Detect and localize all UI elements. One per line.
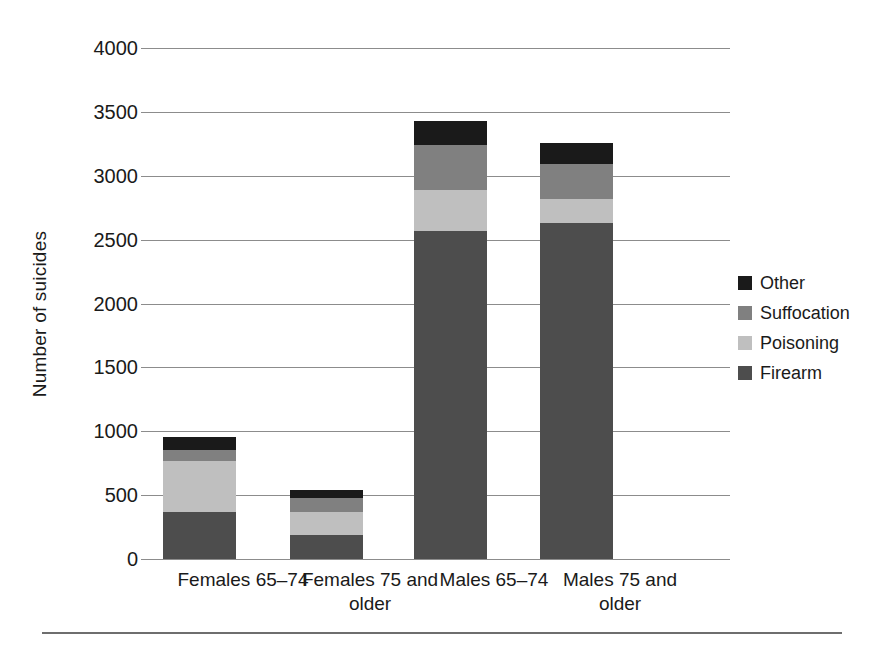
bar-segment-suffocation bbox=[290, 498, 363, 512]
x-tick-label-4: Males 75 and older bbox=[540, 568, 700, 616]
bar-segment-poisoning bbox=[163, 461, 236, 512]
y-tick-label-1000: 1000 bbox=[68, 421, 138, 441]
bar-segment-firearm bbox=[163, 512, 236, 559]
bar-2 bbox=[290, 490, 363, 559]
bar-4 bbox=[540, 143, 613, 559]
y-tick-label-2500: 2500 bbox=[68, 230, 138, 250]
gridline-0 bbox=[163, 559, 730, 560]
bar-segment-poisoning bbox=[414, 190, 487, 231]
bar-1 bbox=[163, 437, 236, 559]
legend-label-other: Other bbox=[760, 273, 805, 294]
legend-swatch-poisoning bbox=[738, 336, 752, 350]
legend-item-other[interactable]: Other bbox=[738, 268, 868, 298]
legend-swatch-firearm bbox=[738, 366, 752, 380]
bar-segment-firearm bbox=[540, 223, 613, 559]
chart-legend: OtherSuffocationPoisoningFirearm bbox=[738, 268, 868, 388]
y-tick-label-500: 500 bbox=[68, 485, 138, 505]
legend-label-poisoning: Poisoning bbox=[760, 333, 839, 354]
y-tick-mark-2500 bbox=[141, 240, 163, 241]
bar-3 bbox=[414, 121, 487, 559]
bottom-divider bbox=[42, 632, 842, 634]
gridline-4000 bbox=[163, 48, 730, 49]
bar-segment-poisoning bbox=[290, 512, 363, 535]
x-axis-tick-labels: Females 65–74Females 75 and olderMales 6… bbox=[120, 568, 780, 628]
legend-item-poisoning[interactable]: Poisoning bbox=[738, 328, 868, 358]
y-tick-label-4000: 4000 bbox=[68, 38, 138, 58]
legend-swatch-other bbox=[738, 276, 752, 290]
bar-segment-other bbox=[290, 490, 363, 498]
legend-label-suffocation: Suffocation bbox=[760, 303, 850, 324]
y-tick-mark-1500 bbox=[141, 367, 163, 368]
y-axis-title: Number of suicides bbox=[29, 184, 51, 444]
y-tick-label-3000: 3000 bbox=[68, 166, 138, 186]
bar-segment-suffocation bbox=[414, 145, 487, 190]
legend-label-firearm: Firearm bbox=[760, 363, 822, 384]
y-tick-mark-1000 bbox=[141, 431, 163, 432]
y-tick-label-2000: 2000 bbox=[68, 294, 138, 314]
y-tick-label-0: 0 bbox=[68, 549, 138, 569]
bar-segment-other bbox=[163, 437, 236, 450]
legend-swatch-suffocation bbox=[738, 306, 752, 320]
y-tick-label-3500: 3500 bbox=[68, 102, 138, 122]
bar-segment-other bbox=[414, 121, 487, 145]
bar-segment-suffocation bbox=[163, 450, 236, 461]
bar-segment-suffocation bbox=[540, 164, 613, 198]
y-tick-mark-0 bbox=[141, 559, 163, 560]
bar-segment-other bbox=[540, 143, 613, 165]
y-tick-mark-500 bbox=[141, 495, 163, 496]
y-tick-mark-3500 bbox=[141, 112, 163, 113]
y-tick-label-1500: 1500 bbox=[68, 357, 138, 377]
bar-segment-firearm bbox=[414, 231, 487, 559]
plot-area bbox=[163, 48, 730, 559]
y-axis-tick-labels: 40003500300025002000150010005000 bbox=[58, 48, 138, 559]
bar-segment-poisoning bbox=[540, 199, 613, 223]
y-tick-mark-4000 bbox=[141, 48, 163, 49]
gridline-3500 bbox=[163, 112, 730, 113]
chart-figure: Number of suicides 400035003000250020001… bbox=[0, 0, 877, 651]
y-tick-mark-3000 bbox=[141, 176, 163, 177]
legend-item-suffocation[interactable]: Suffocation bbox=[738, 298, 868, 328]
y-tick-mark-2000 bbox=[141, 304, 163, 305]
bar-segment-firearm bbox=[290, 535, 363, 559]
legend-item-firearm[interactable]: Firearm bbox=[738, 358, 868, 388]
